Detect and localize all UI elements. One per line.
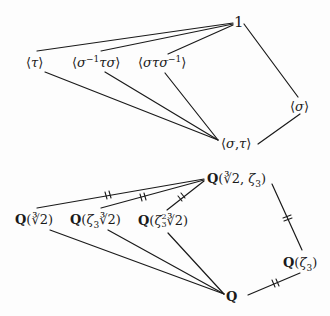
Q: Q bbox=[70, 212, 81, 227]
sigma: σ bbox=[295, 99, 304, 114]
node-sigma-inv-tau-sigma: ⟨σ−1τσ⟩ bbox=[72, 56, 120, 69]
node-Q-zeta3-cbrt2: Q(ζ3∛2) bbox=[70, 213, 121, 226]
rparen: ) bbox=[116, 212, 121, 227]
edge-tau-st bbox=[45, 72, 218, 140]
rparen: ) bbox=[261, 171, 266, 186]
edge-cbrt2-Q bbox=[50, 230, 224, 294]
lattice-lines bbox=[0, 0, 330, 316]
normal-tick-marks bbox=[105, 191, 292, 287]
rparen: ) bbox=[48, 212, 53, 227]
sigma: σ bbox=[226, 136, 235, 151]
exponent: −1 bbox=[168, 54, 181, 64]
rangle: ⟩ bbox=[246, 136, 251, 151]
edge-z3sqcbrt2-Q bbox=[168, 233, 224, 294]
rangle: ⟩ bbox=[181, 55, 186, 70]
edge-1-tau bbox=[37, 23, 233, 51]
Q: Q bbox=[226, 289, 237, 304]
rangle: ⟩ bbox=[38, 55, 43, 70]
edge-sinvts-st bbox=[105, 72, 218, 140]
node-Q-cbrt2: Q(∛2) bbox=[15, 213, 53, 226]
rparen: ) bbox=[312, 255, 317, 270]
zeta: ζ bbox=[154, 213, 161, 228]
Q: Q bbox=[15, 212, 26, 227]
edge-1-sinvts bbox=[101, 24, 233, 51]
sigma: σ bbox=[77, 55, 86, 70]
sigma: σ bbox=[159, 55, 168, 70]
edge-1-stsinv bbox=[168, 25, 233, 54]
cbrt2: ∛2 bbox=[31, 212, 48, 227]
rparen: ) bbox=[183, 213, 188, 228]
node-trivial-text: 1 bbox=[234, 13, 244, 31]
edge-z3cbrt2-Q bbox=[108, 230, 224, 294]
cbrt2: ∛2 bbox=[167, 213, 184, 228]
Q: Q bbox=[138, 213, 149, 228]
edge-split-cbrt2 bbox=[37, 179, 204, 208]
node-sigma-tau-sigma-inv: ⟨στσ−1⟩ bbox=[138, 56, 186, 69]
cbrt2: ∛2 bbox=[223, 171, 240, 186]
node-tau: ⟨τ⟩ bbox=[26, 56, 43, 69]
node-sigma: ⟨σ⟩ bbox=[290, 100, 309, 113]
Q: Q bbox=[207, 171, 218, 186]
node-sigma-tau: ⟨σ,τ⟩ bbox=[221, 137, 251, 150]
edge-1-sigma bbox=[244, 24, 298, 97]
node-trivial: 1 bbox=[234, 15, 244, 30]
node-Q-zeta3: Q(ζ3) bbox=[283, 256, 317, 269]
exponent: −1 bbox=[86, 54, 99, 64]
node-Q-zeta3sq-cbrt2: Q(ζ23∛2) bbox=[138, 213, 188, 229]
sigma: σ bbox=[143, 55, 152, 70]
node-Q: Q bbox=[226, 290, 237, 303]
Q: Q bbox=[283, 255, 294, 270]
cbrt2: ∛2 bbox=[99, 212, 116, 227]
rangle: ⟩ bbox=[115, 55, 120, 70]
node-splitting-field: Q(∛2, ζ3) bbox=[207, 172, 266, 185]
rangle: ⟩ bbox=[304, 99, 309, 114]
sigma: σ bbox=[106, 55, 115, 70]
comma: , bbox=[240, 171, 244, 186]
edge-sigma-st bbox=[258, 114, 300, 144]
